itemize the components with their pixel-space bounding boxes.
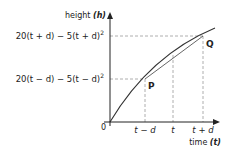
height-time-graph: height (h) time (t) 20(t + d) − 5(t + d)… [0, 0, 232, 155]
y-axis-title: height (h) [65, 11, 106, 20]
y-tick-upper: 20(t + d) − 5(t + d)2 [16, 29, 105, 41]
y-axis-arrow-icon [107, 12, 113, 19]
x-axis-arrow-icon [213, 119, 220, 125]
y-tick-lower: 20(t − d) − 5(t − d)2 [16, 72, 105, 84]
graph-canvas: height (h) time (t) 20(t + d) − 5(t + d)… [0, 0, 232, 155]
x-tick-t-plus-d: t + d [192, 125, 214, 135]
height-curve [110, 28, 215, 122]
origin-label: 0 [101, 123, 106, 132]
point-q-label: Q [206, 39, 214, 49]
chord-pq [145, 36, 203, 79]
x-axis-title: time (t) [189, 138, 221, 147]
dashed-guides [110, 36, 203, 122]
x-tick-t: t [171, 125, 175, 135]
x-tick-t-minus-d: t − d [134, 125, 156, 135]
point-p-label: P [148, 81, 155, 91]
